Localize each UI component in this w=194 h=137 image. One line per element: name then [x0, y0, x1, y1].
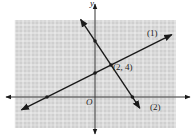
- intersection-label: (2, 4): [113, 63, 133, 72]
- line-1-label: (1): [147, 29, 158, 38]
- marked-point: [45, 95, 49, 99]
- origin-label: O: [86, 98, 93, 107]
- line-2-label: (2): [150, 103, 161, 112]
- y-axis-label: y: [90, 0, 94, 8]
- marked-point: [131, 95, 135, 99]
- marked-point: [93, 71, 97, 75]
- marked-point: [93, 39, 97, 43]
- graph-canvas: [0, 0, 194, 137]
